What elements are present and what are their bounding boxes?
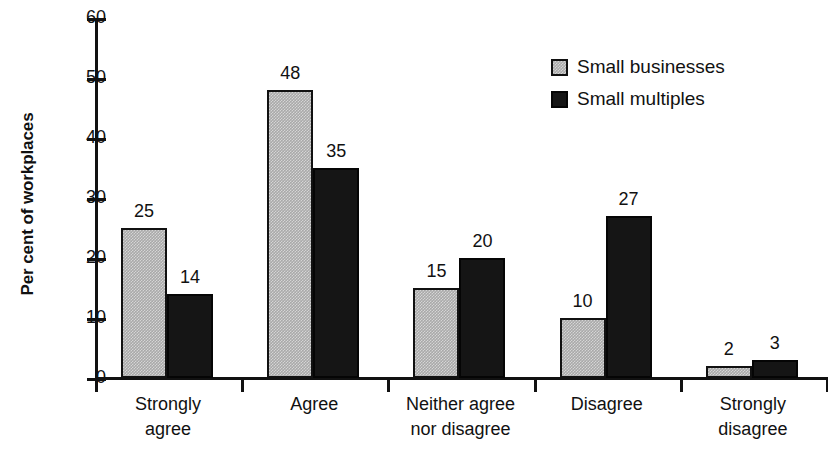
bar-value-label: 25	[109, 201, 179, 222]
category-label-line: disagree	[680, 417, 826, 442]
x-axis-category-label: Neither agreenor disagree	[387, 392, 533, 442]
bar-value-label: 3	[740, 333, 810, 354]
legend-label: Small businesses	[577, 56, 725, 78]
bar-value-label: 14	[155, 267, 225, 288]
bar	[560, 318, 606, 378]
bar-value-label: 48	[255, 63, 325, 84]
bar-value-label: 27	[594, 189, 664, 210]
category-label-line: Agree	[241, 392, 387, 417]
legend-entry-small-businesses: Small businesses	[551, 51, 725, 83]
bar	[606, 216, 652, 378]
legend-label: Small multiples	[577, 88, 705, 110]
chart-legend: Small businesses Small multiples	[551, 51, 725, 115]
bar-chart: Per cent of workplaces 0102030405060 254…	[0, 0, 828, 451]
bar	[413, 288, 459, 378]
bar	[267, 90, 313, 378]
black-square-swatch	[551, 91, 568, 108]
bar	[706, 366, 752, 378]
bar	[313, 168, 359, 378]
x-axis-category-label: Stronglydisagree	[680, 392, 826, 442]
x-axis-category-label: Agree	[241, 392, 387, 417]
bar	[167, 294, 213, 378]
x-axis-category-label: Disagree	[534, 392, 680, 417]
bar	[459, 258, 505, 378]
bar-value-label: 35	[301, 141, 371, 162]
bar-value-label: 20	[447, 231, 517, 252]
bar	[752, 360, 798, 378]
category-label-line: nor disagree	[387, 417, 533, 442]
category-label-line: Neither agree	[387, 392, 533, 417]
category-label-line: Strongly	[680, 392, 826, 417]
category-label-line: Strongly	[95, 392, 241, 417]
bar	[121, 228, 167, 378]
category-label-line: Disagree	[534, 392, 680, 417]
x-axis-category-label: Stronglyagree	[95, 392, 241, 442]
legend-entry-small-multiples: Small multiples	[551, 83, 725, 115]
category-label-line: agree	[95, 417, 241, 442]
gray-square-swatch	[551, 59, 568, 76]
